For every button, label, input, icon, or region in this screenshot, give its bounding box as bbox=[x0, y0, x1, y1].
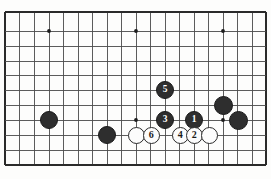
stone-white-plain-right[interactable] bbox=[201, 127, 218, 144]
star-point bbox=[47, 29, 51, 33]
stone-move-number: 5 bbox=[163, 85, 167, 95]
stone-black-right-lower[interactable] bbox=[229, 111, 248, 130]
stone-black-right-upper[interactable] bbox=[214, 96, 233, 115]
star-point bbox=[134, 29, 138, 33]
stone-white-move-6[interactable]: 6 bbox=[143, 127, 160, 144]
stone-move-number: 6 bbox=[149, 130, 154, 140]
star-point bbox=[221, 29, 225, 33]
stone-black-move-3[interactable]: 3 bbox=[156, 111, 174, 129]
stone-move-number: 1 bbox=[192, 115, 196, 125]
stone-move-number: 3 bbox=[163, 115, 167, 125]
go-board-grid bbox=[0, 0, 271, 179]
stone-black-left-upper[interactable] bbox=[40, 111, 58, 129]
stone-black-move-5[interactable]: 5 bbox=[156, 81, 174, 99]
go-board-diagram: 653412 bbox=[0, 0, 271, 179]
stone-white-plain-left[interactable] bbox=[128, 127, 145, 144]
stone-white-move-2[interactable]: 2 bbox=[186, 127, 203, 144]
stone-black-left-lower[interactable] bbox=[98, 126, 116, 144]
star-point bbox=[221, 118, 225, 122]
stone-move-number: 4 bbox=[178, 130, 183, 140]
star-point bbox=[134, 118, 138, 122]
stone-move-number: 2 bbox=[192, 130, 197, 140]
